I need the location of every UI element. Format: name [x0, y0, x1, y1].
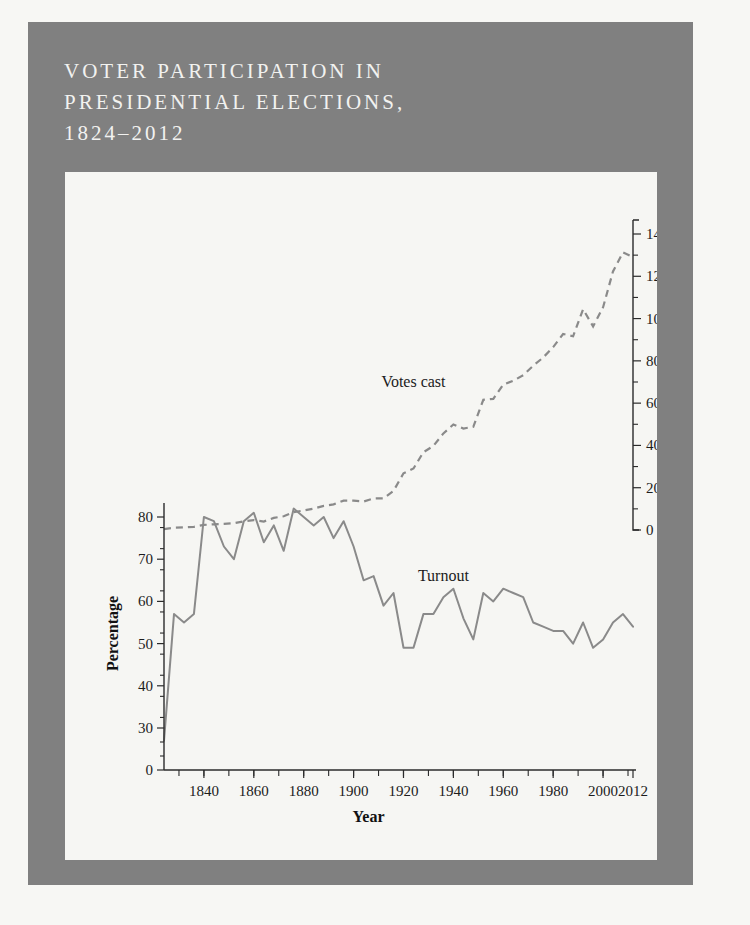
- chart-svg: 0304050607080184018601880190019201940196…: [65, 172, 657, 860]
- turnout-label: Turnout: [418, 567, 470, 584]
- y-right-tick-label: 100: [646, 311, 657, 327]
- chart-title: Voter Participation in Presidential Elec…: [64, 56, 664, 149]
- x-tick-label: 2012: [618, 783, 648, 799]
- y-left-tick-label: 60: [138, 593, 153, 609]
- figure-card: Voter Participation in Presidential Elec…: [28, 22, 693, 885]
- x-tick-label: 1960: [488, 783, 518, 799]
- y-left-tick-label: 80: [138, 509, 153, 525]
- turnout-group: [164, 509, 633, 741]
- x-tick-label: 1840: [189, 783, 219, 799]
- y-right-tick-label: 60: [646, 395, 657, 411]
- votes-cast-label: Votes cast: [381, 373, 446, 390]
- x-tick-label: 2000: [588, 783, 618, 799]
- x-tick-label: 1980: [538, 783, 568, 799]
- x-tick-label: 1880: [289, 783, 319, 799]
- x-tick-label: 1940: [438, 783, 468, 799]
- votes-cast-line: [164, 252, 633, 529]
- y-right-tick-label: 40: [646, 437, 657, 453]
- turnout-line: [164, 509, 633, 741]
- y-right-tick-label: 0: [646, 522, 654, 538]
- y-left-tick-label: 50: [138, 636, 153, 652]
- y-right-tick-label: 140: [646, 226, 657, 242]
- y-axis-title: Percentage: [104, 596, 122, 671]
- y-left-tick-label: 40: [138, 678, 153, 694]
- x-tick-label: 1900: [339, 783, 369, 799]
- votes-cast-group: [164, 252, 633, 529]
- y-right-tick-label: 80: [646, 353, 657, 369]
- x-tick-label: 1920: [388, 783, 418, 799]
- plot-panel: 0304050607080184018601880190019201940196…: [65, 172, 657, 860]
- x-axis-title: Year: [353, 808, 385, 825]
- axes-group: [157, 220, 641, 778]
- labels-group: 0304050607080184018601880190019201940196…: [104, 226, 657, 825]
- y-left-tick-label: 70: [138, 551, 153, 567]
- y-right-tick-label: 120: [646, 268, 657, 284]
- x-tick-label: 1860: [239, 783, 269, 799]
- y-left-tick-label: 0: [146, 762, 154, 778]
- y-left-tick-label: 30: [138, 720, 153, 736]
- y-right-tick-label: 20: [646, 480, 657, 496]
